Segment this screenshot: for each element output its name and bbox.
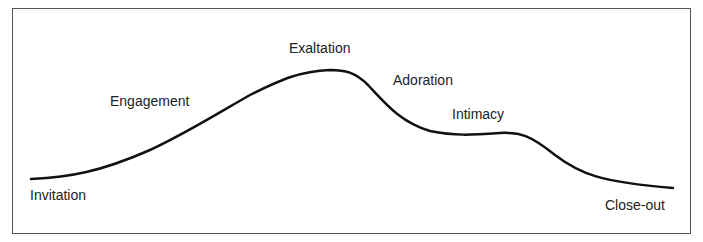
stage-close-out: Close-out bbox=[605, 197, 665, 213]
stage-exaltation: Exaltation bbox=[289, 40, 350, 56]
stage-invitation: Invitation bbox=[30, 187, 86, 203]
intensity-curve bbox=[0, 0, 703, 242]
stage-adoration: Adoration bbox=[393, 72, 453, 88]
stage-intimacy: Intimacy bbox=[452, 106, 504, 122]
stage-engagement: Engagement bbox=[110, 93, 189, 109]
